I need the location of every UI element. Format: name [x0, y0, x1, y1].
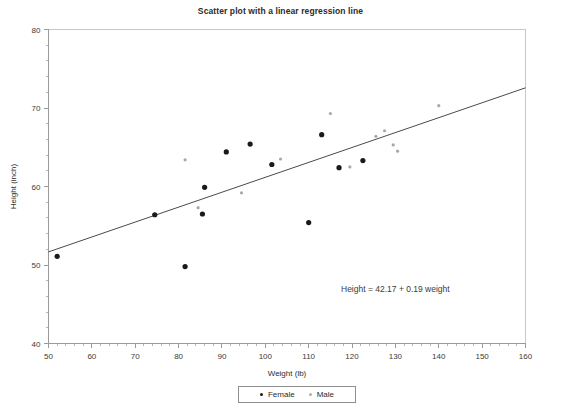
- scatter-plot-canvas: 4050607080 50607080901001101201301401501…: [0, 0, 561, 412]
- y-tick-label-70: 70: [32, 104, 41, 113]
- legend-label-male: Male: [317, 391, 334, 399]
- data-point-male-2: [240, 191, 243, 194]
- data-point-male-1: [197, 206, 200, 209]
- y-tick-label-40: 40: [32, 340, 41, 349]
- chart-figure: Scatter plot with a linear regression li…: [0, 0, 561, 412]
- x-tick-label-160: 160: [519, 352, 533, 361]
- data-points-male: [183, 104, 440, 209]
- axis-frame: [49, 30, 526, 344]
- y-tick-label-50: 50: [32, 261, 41, 270]
- regression-line: [49, 88, 526, 252]
- data-point-female-5: [224, 149, 229, 154]
- y-tick-label-60: 60: [32, 183, 41, 192]
- x-tick-label-120: 120: [345, 352, 359, 361]
- x-axis-title: Weight (lb): [268, 369, 307, 378]
- data-point-male-5: [348, 165, 351, 168]
- x-tick-label-110: 110: [302, 352, 315, 361]
- x-tick-label-50: 50: [44, 352, 53, 361]
- regression-equation-annotation: Height = 42.17 + 0.19 weight: [341, 284, 450, 294]
- data-point-female-2: [182, 264, 187, 269]
- data-point-female-10: [336, 165, 341, 170]
- x-axis-major-ticks: [49, 344, 526, 349]
- x-tick-label-100: 100: [259, 352, 273, 361]
- data-point-male-0: [183, 158, 186, 161]
- data-point-female-9: [319, 132, 324, 137]
- data-point-male-4: [329, 112, 332, 115]
- legend-item-male: Male: [309, 391, 334, 399]
- data-point-female-0: [55, 254, 60, 259]
- x-tick-label-130: 130: [389, 352, 403, 361]
- x-tick-label-70: 70: [131, 352, 140, 361]
- legend: Female Male: [238, 386, 356, 403]
- x-tick-label-60: 60: [87, 352, 96, 361]
- data-point-female-3: [200, 211, 205, 216]
- legend-item-female: Female: [260, 391, 295, 399]
- data-point-female-8: [306, 220, 311, 225]
- data-point-female-11: [360, 158, 365, 163]
- legend-marker-male-icon: [309, 393, 312, 396]
- x-tick-label-80: 80: [174, 352, 183, 361]
- data-point-female-4: [202, 185, 207, 190]
- data-point-female-7: [269, 162, 274, 167]
- data-point-male-6: [374, 135, 377, 138]
- data-point-female-6: [248, 142, 253, 147]
- data-point-male-7: [383, 129, 386, 132]
- y-tick-label-80: 80: [32, 26, 41, 35]
- x-tick-label-150: 150: [475, 352, 489, 361]
- x-tick-label-140: 140: [432, 352, 446, 361]
- data-point-male-9: [396, 150, 399, 153]
- x-tick-label-90: 90: [218, 352, 227, 361]
- x-axis-tick-labels: 5060708090100110120130140150160: [44, 352, 533, 361]
- legend-label-female: Female: [268, 391, 295, 399]
- y-axis-tick-labels: 4050607080: [32, 26, 41, 349]
- data-point-male-3: [279, 157, 282, 160]
- data-point-female-1: [152, 212, 157, 217]
- data-points-female: [55, 132, 366, 269]
- legend-marker-female-icon: [260, 393, 263, 396]
- data-point-male-10: [437, 104, 440, 107]
- data-point-male-8: [392, 143, 395, 146]
- y-axis-title: Height (inch): [9, 163, 18, 209]
